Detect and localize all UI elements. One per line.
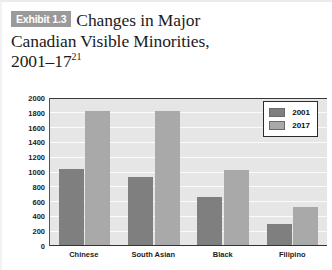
bar-group (50, 98, 119, 245)
title-text-3: 2001–17 (11, 51, 72, 71)
title-line-1: Exhibit 1.3Changes in Major (11, 10, 329, 31)
chart-legend: 2001 2017 (263, 101, 318, 137)
x-axis-label: Chinese (69, 250, 98, 259)
y-axis-tick-label: 2000 (28, 94, 45, 103)
bar-group (189, 98, 258, 245)
y-axis-tick-label: 1400 (28, 138, 45, 147)
legend-item: 2001 (269, 106, 310, 119)
y-axis-tick-label: 600 (32, 197, 45, 206)
bar-filipino-2017 (293, 207, 318, 245)
x-axis-labels: ChineseSouth AsianBlackFilipino (49, 250, 327, 264)
exhibit-number-badge: Exhibit 1.3 (11, 11, 71, 27)
bar-south-asian-2001 (128, 177, 153, 245)
bar-filipino-2001 (267, 224, 292, 245)
bar-south-asian-2017 (155, 111, 180, 245)
x-axis-label: Filipino (279, 250, 306, 259)
y-axis-tick-label: 1600 (28, 123, 45, 132)
x-axis-label: South Asian (132, 250, 175, 259)
title-line-3: 2001–1721 (11, 51, 329, 72)
bar-chart: 0200400600800100012001400160018002000 20… (11, 98, 327, 264)
y-axis-tick-label: 800 (32, 182, 45, 191)
bar-group (119, 98, 188, 245)
y-axis-tick-label: 1800 (28, 108, 45, 117)
bar-chinese-2017 (85, 111, 110, 245)
y-axis-tick-label: 1000 (28, 168, 45, 177)
bar-black-2001 (197, 197, 222, 245)
bar-chinese-2001 (59, 169, 84, 245)
y-axis-tick-label: 400 (32, 212, 45, 221)
y-axis-tick-label: 0 (41, 242, 45, 251)
legend-item: 2017 (269, 119, 310, 132)
footnote-marker: 21 (72, 51, 82, 62)
legend-label-2001: 2001 (292, 108, 310, 117)
exhibit-figure: Exhibit 1.3Changes in Major Canadian Vis… (0, 0, 332, 270)
y-axis-tick-label: 1200 (28, 153, 45, 162)
title-text-1: Changes in Major (76, 10, 200, 30)
legend-swatch-2017-icon (269, 121, 285, 130)
legend-label-2017: 2017 (292, 121, 310, 130)
y-axis-labels: 0200400600800100012001400160018002000 (11, 98, 47, 246)
x-axis-label: Black (213, 250, 233, 259)
plot-area: 2001 2017 (49, 98, 327, 246)
legend-swatch-2001-icon (269, 108, 285, 117)
y-axis-tick-label: 200 (32, 227, 45, 236)
exhibit-title-block: Exhibit 1.3Changes in Major Canadian Vis… (11, 10, 329, 72)
title-line-2: Canadian Visible Minorities, (11, 31, 329, 52)
bar-black-2017 (224, 170, 249, 245)
